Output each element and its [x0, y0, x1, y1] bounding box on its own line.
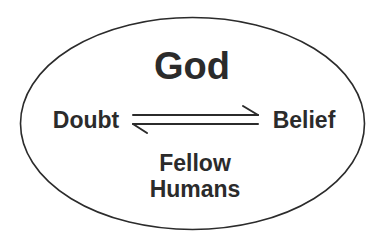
fellow-line: Fellow	[130, 150, 260, 176]
node-belief: Belief	[266, 106, 342, 134]
arrow-doubt-to-belief-barb	[243, 106, 258, 115]
label-fellow-humans: Fellow Humans	[130, 150, 260, 202]
title-god: God	[142, 44, 242, 88]
arrow-belief-to-doubt-barb	[133, 124, 147, 133]
equilibrium-arrows	[133, 106, 258, 133]
humans-line: Humans	[130, 176, 260, 202]
node-doubt: Doubt	[46, 106, 126, 134]
